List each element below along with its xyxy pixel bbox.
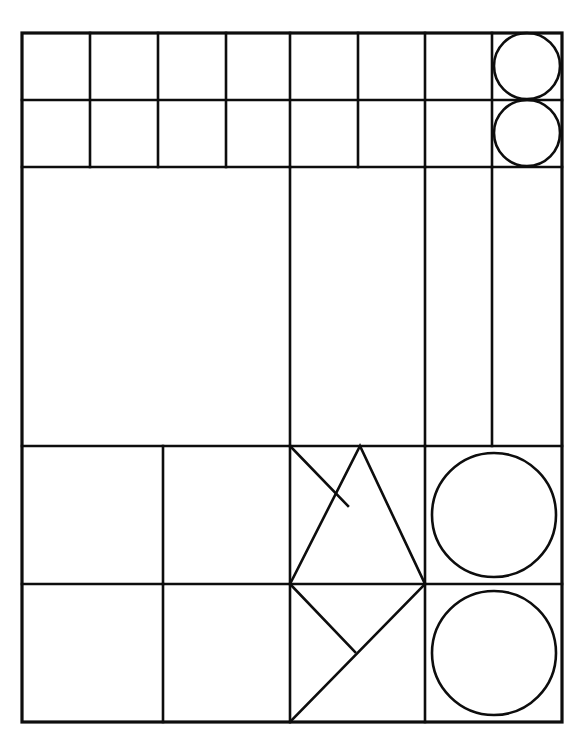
outer-rectangle [22,33,562,722]
horizontal-separators-group [22,100,562,584]
chevron-upper-left-band5 [290,584,355,652]
band-4-figures-group [290,446,556,584]
circle-second-row-right [494,100,560,166]
band-4-vertical-dividers-group [163,446,425,584]
circle-fourth-row-right [432,453,556,577]
outer-frame-group [22,33,562,722]
circle-top-row-right [494,33,560,99]
band-3-vertical-dividers-group [290,167,492,446]
band-1-figures-group [494,33,560,99]
geometric-partition-figure [0,0,588,744]
band-5-figures-group [290,584,556,722]
band-2-figures-group [494,100,560,166]
diagram-root [0,0,588,744]
circle-fifth-row-right [432,591,556,715]
chevron-upper-left-band4 [290,446,348,506]
band-5-vertical-dividers-group [163,584,425,722]
